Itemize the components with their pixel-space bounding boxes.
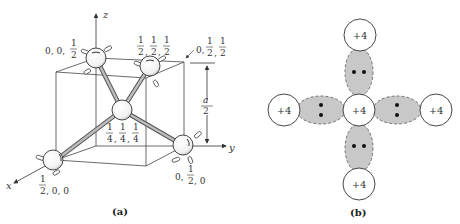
svg-text:2: 2 (40, 186, 46, 196)
svg-text:1: 1 (40, 174, 46, 184)
atom-half-half-half (140, 56, 160, 76)
svg-text:,: , (114, 134, 117, 144)
svg-text:1: 1 (220, 36, 226, 46)
svg-text:0,: 0, (196, 45, 205, 55)
svg-text:1: 1 (107, 122, 113, 132)
label-0-0: 0, 0, (45, 46, 65, 56)
svg-text:1: 1 (207, 36, 213, 46)
label-0-half-0: 0, 1 2 , 0 (175, 164, 206, 186)
svg-text:+4: +4 (352, 105, 367, 116)
svg-text:2: 2 (138, 47, 144, 57)
svg-text:4: 4 (120, 134, 126, 144)
bond-top (345, 48, 373, 96)
label-0-half-half: 0, 1 2 , 1 2 (186, 36, 226, 58)
svg-text:+4: +4 (277, 105, 292, 116)
svg-text:2: 2 (207, 48, 213, 58)
svg-text:,: , (127, 134, 130, 144)
svg-text:4: 4 (133, 134, 139, 144)
svg-text:4: 4 (107, 134, 113, 144)
caption-b: (b) (350, 207, 366, 218)
x-axis-label: x (6, 180, 12, 191)
svg-text:, 0, 0: , 0, 0 (46, 186, 69, 196)
svg-text:2: 2 (71, 50, 77, 60)
atom-quarter (112, 100, 132, 120)
y-axis-label: y (228, 142, 235, 153)
atom-0-half-0 (173, 135, 193, 155)
svg-text:,: , (158, 47, 161, 57)
bond-left (297, 96, 345, 124)
panel-b-covalent-bonds: +4 +4 +4 +4 +4 (b) (268, 19, 452, 218)
label-quarter: 1 4 , 1 4 , 1 4 (106, 122, 139, 144)
atom-half-0-0 (43, 150, 63, 170)
dimension-numerator: a (203, 95, 208, 105)
svg-text:+4: +4 (429, 105, 444, 116)
svg-text:1: 1 (133, 122, 139, 132)
svg-text:2: 2 (164, 47, 170, 57)
svg-text:1: 1 (120, 122, 126, 132)
svg-text:1: 1 (151, 35, 157, 45)
svg-text:,: , (145, 47, 148, 57)
caption-a: (a) (112, 206, 128, 217)
bond-right (373, 96, 421, 124)
dimension-marker: a 2 (190, 63, 215, 143)
panel-a-unit-cell: z x y a 2 (6, 9, 235, 217)
label-half-0-0: 1 2 , 0, 0 (39, 174, 69, 196)
svg-text:1: 1 (138, 35, 144, 45)
dimension-denominator: 2 (203, 106, 209, 116)
svg-text:2: 2 (188, 176, 194, 186)
diamond-lattice-figure: z x y a 2 (0, 0, 460, 224)
bond-bottom (345, 124, 373, 172)
svg-text:,: , (214, 48, 217, 58)
svg-text:2: 2 (151, 47, 157, 57)
svg-text:+4: +4 (353, 30, 368, 41)
svg-text:2: 2 (220, 48, 226, 58)
svg-text:+4: +4 (352, 179, 367, 190)
svg-text:1: 1 (71, 38, 77, 48)
svg-text:0,: 0, (175, 172, 184, 182)
svg-text:, 0: , 0 (194, 176, 206, 186)
svg-text:1: 1 (164, 35, 170, 45)
svg-text:1: 1 (188, 164, 194, 174)
label-half-half-half: 1 2 , 1 2 , 1 2 (137, 35, 170, 57)
z-axis-label: z (102, 9, 109, 20)
atom-0-0-half (86, 48, 106, 68)
